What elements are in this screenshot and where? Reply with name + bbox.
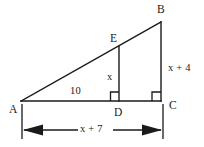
right-angle-marker-C: [152, 92, 161, 101]
measure-label-AC: x + 7: [80, 124, 103, 135]
dimension-arrowhead-left: [23, 125, 43, 136]
measure-label-AD: 10: [70, 86, 81, 97]
measure-label-ED: x: [107, 72, 112, 83]
measure-label-BC: x + 4: [168, 63, 191, 74]
vertex-label-A: A: [9, 104, 18, 116]
geometry-figure: A B C D E 10 x x + 4 x + 7: [0, 0, 204, 147]
vertex-label-E: E: [110, 33, 117, 45]
segment-hypotenuse-AB: [21, 22, 161, 101]
vertex-label-C: C: [169, 100, 177, 112]
right-angle-marker-D: [111, 92, 120, 101]
vertex-label-B: B: [157, 4, 165, 16]
dimension-arrowhead-right: [142, 125, 162, 136]
vertex-label-D: D: [114, 107, 123, 119]
